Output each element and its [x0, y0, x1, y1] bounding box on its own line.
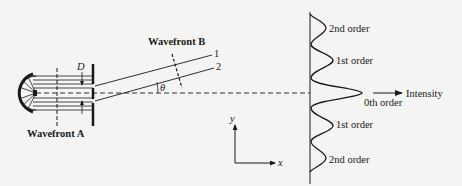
ray-1-label: 1	[214, 48, 219, 59]
slit-spacing-label: D	[76, 61, 85, 72]
axis-x-label: x	[277, 157, 283, 168]
angle-label: θ	[160, 82, 165, 93]
intensity-label: Intensity	[406, 88, 443, 99]
order-label-2nd-upper: 2nd order	[329, 23, 370, 34]
wavefront-a-label: Wavefront A	[27, 128, 85, 139]
axis-y-label: y	[229, 113, 235, 124]
double-slit-figure: D 1 2 Wavefront B θ Wavefront A 2nd orde…	[0, 0, 462, 186]
coordinate-axes	[235, 125, 275, 163]
wavefront-b-line	[172, 54, 182, 88]
wavefront-b-label: Wavefront B	[148, 36, 205, 47]
diffracted-rays	[95, 55, 214, 101]
order-label-2nd-lower: 2nd order	[329, 154, 370, 165]
ray-2-label: 2	[216, 61, 221, 72]
order-label-1st-lower: 1st order	[336, 119, 374, 130]
diagram-canvas: D 1 2 Wavefront B θ Wavefront A 2nd orde…	[0, 0, 462, 186]
order-label-0th: 0th order	[364, 97, 403, 108]
intensity-curve	[310, 14, 362, 172]
order-label-1st-upper: 1st order	[336, 55, 374, 66]
